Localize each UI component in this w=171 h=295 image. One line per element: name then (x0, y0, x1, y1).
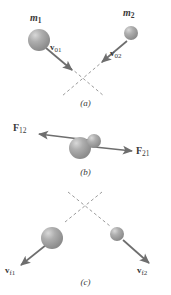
velocity-arrow-vf1 (21, 245, 46, 265)
velocity-label-vf1-subscript: f1 (10, 269, 16, 277)
panel-b-graphics (39, 134, 132, 159)
mass-sphere-m2-contact (87, 134, 101, 148)
panel-c-graphics (21, 192, 149, 265)
velocity-label-v02-subscript: 02 (115, 52, 122, 60)
mass-label-m2-subscript: 2 (131, 11, 135, 20)
mass-label-m2: m2 (123, 8, 135, 19)
force-label-F21-subscript: 21 (142, 149, 150, 158)
collision-figure: m1 m2 v01 v02 (a) F12 F21 (b) vf1 vf2 (c… (0, 0, 171, 295)
velocity-label-v01: v01 (50, 43, 62, 54)
velocity-label-vf1: vf1 (5, 266, 15, 277)
mass-label-m1-subscript: 1 (38, 16, 42, 25)
panel-caption-b: (b) (0, 168, 171, 177)
panel-a-graphics (28, 26, 138, 96)
force-label-F21: F21 (136, 146, 150, 157)
velocity-label-vf2: vf2 (137, 266, 147, 277)
mass-sphere-m2-final (110, 227, 124, 241)
mass-label-m2-symbol: m (123, 7, 131, 18)
dashed-trajectory-a-2 (62, 57, 108, 96)
mass-label-m1: m1 (30, 13, 42, 24)
velocity-label-v02: v02 (110, 49, 122, 60)
dashed-trajectory-c-1 (65, 192, 102, 222)
force-label-F12-subscript: 12 (19, 126, 27, 135)
panel-caption-c: (c) (0, 278, 171, 287)
panel-caption-a: (a) (0, 99, 171, 108)
mass-sphere-m2 (124, 26, 138, 40)
force-label-F12: F12 (13, 123, 27, 134)
velocity-label-v01-subscript: 01 (55, 46, 62, 54)
mass-sphere-m1 (28, 29, 50, 51)
mass-sphere-m1-final (41, 227, 63, 249)
velocity-label-vf2-subscript: f2 (142, 269, 148, 277)
velocity-arrow-vf2 (123, 240, 149, 263)
dashed-trajectory-c-2 (68, 192, 110, 226)
mass-label-m1-symbol: m (30, 12, 38, 23)
